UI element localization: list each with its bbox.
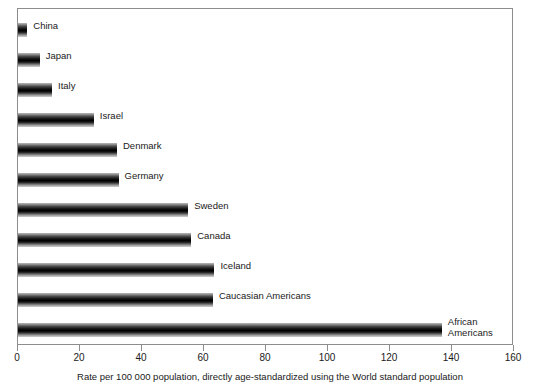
- x-axis-tick: [389, 345, 390, 351]
- bar-label-line: China: [33, 20, 58, 31]
- bar-row: Israel: [18, 105, 513, 135]
- x-axis-tick: [79, 345, 80, 351]
- bar-label-line: Israel: [100, 110, 123, 121]
- x-axis-tick-label: 20: [73, 352, 84, 364]
- bar-israel: [18, 113, 94, 127]
- bar-chart: ChinaJapanItalyIsraelDenmarkGermanySwede…: [0, 0, 540, 386]
- x-axis-tick-label: 160: [505, 352, 522, 364]
- bar-sweden: [18, 203, 188, 217]
- bar-label-japan: Japan: [46, 51, 72, 61]
- bar-label-line: Germany: [125, 170, 164, 181]
- bar-label-iceland: Iceland: [220, 261, 251, 271]
- x-axis-tick-label: 40: [135, 352, 146, 364]
- bars-layer: ChinaJapanItalyIsraelDenmarkGermanySwede…: [18, 9, 513, 344]
- bar-germany: [18, 173, 119, 187]
- bar-japan: [18, 53, 40, 67]
- bar-row: Germany: [18, 165, 513, 195]
- bar-label-line: Italy: [58, 80, 75, 91]
- bar-label-italy: Italy: [58, 81, 75, 91]
- bar-label-line: Sweden: [194, 200, 228, 211]
- bar-label-germany: Germany: [125, 171, 164, 181]
- bar-label-denmark: Denmark: [123, 141, 162, 151]
- bar-label-line: Caucasian Americans: [219, 290, 311, 301]
- x-axis-tick: [17, 345, 18, 351]
- bar-row: Japan: [18, 45, 513, 75]
- bar-african-americans: [18, 323, 442, 337]
- bar-row: China: [18, 15, 513, 45]
- bar-label-line: Canada: [197, 230, 230, 241]
- x-axis-tick: [327, 345, 328, 351]
- bar-iceland: [18, 263, 214, 277]
- x-axis-tick-label: 80: [259, 352, 270, 364]
- bar-row: Italy: [18, 75, 513, 105]
- x-axis-tick-label: 120: [381, 352, 398, 364]
- bar-caucasian-americans: [18, 293, 213, 307]
- x-axis-tick: [203, 345, 204, 351]
- x-axis-tick: [513, 345, 514, 351]
- bar-label-line: Americans: [448, 327, 493, 338]
- bar-italy: [18, 83, 52, 97]
- bar-label-african-americans: AfricanAmericans: [448, 316, 512, 338]
- bar-row: Sweden: [18, 195, 513, 225]
- x-axis-tick: [141, 345, 142, 351]
- x-axis-tick-label: 60: [197, 352, 208, 364]
- bar-row: Canada: [18, 225, 513, 255]
- bar-label-sweden: Sweden: [194, 201, 228, 211]
- x-axis-tick-label: 140: [443, 352, 460, 364]
- x-axis-tick: [265, 345, 266, 351]
- bar-label-line: Denmark: [123, 140, 162, 151]
- bar-denmark: [18, 143, 117, 157]
- x-axis-tick-label: 0: [14, 352, 20, 364]
- bar-row: Denmark: [18, 135, 513, 165]
- x-axis-tick: [451, 345, 452, 351]
- bar-china: [18, 23, 27, 37]
- bar-row: Caucasian Americans: [18, 285, 513, 315]
- bar-label-china: China: [33, 21, 58, 31]
- bar-canada: [18, 233, 191, 247]
- x-axis-tick-label: 100: [319, 352, 336, 364]
- bar-label-line: Iceland: [220, 260, 251, 271]
- bar-label-line: African: [448, 316, 478, 327]
- bar-label-canada: Canada: [197, 231, 230, 241]
- bar-label-israel: Israel: [100, 111, 123, 121]
- bar-label-line: Japan: [46, 50, 72, 61]
- bar-row: AfricanAmericans: [18, 315, 513, 345]
- x-axis-caption: Rate per 100 000 population, directly ag…: [0, 371, 540, 383]
- bar-label-caucasian-americans: Caucasian Americans: [219, 291, 311, 301]
- bar-row: Iceland: [18, 255, 513, 285]
